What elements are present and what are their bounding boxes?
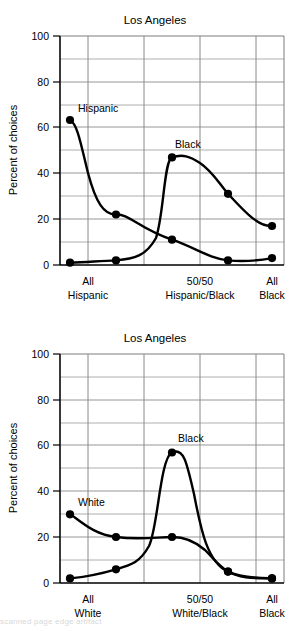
svg-text:Hispanic/Black: Hispanic/Black <box>166 289 236 301</box>
y-axis-label: Percent of choices <box>7 422 19 513</box>
y-axis-label: Percent of choices <box>7 104 19 195</box>
series-curve-white <box>70 514 272 578</box>
y-gridlines-major <box>60 400 284 537</box>
series-curve-black <box>70 451 272 578</box>
y-tick-label-40: 40 <box>37 167 49 179</box>
svg-text:Hispanic: Hispanic <box>68 289 108 301</box>
x-tick-label-all-hispanic: All Hispanic <box>68 275 108 301</box>
svg-text:All: All <box>82 593 94 605</box>
plot-frame <box>60 36 284 265</box>
x-gridlines <box>88 354 256 583</box>
x-gridlines <box>88 36 256 265</box>
x-tick-label-5050-hispanic-black: 50/50 Hispanic/Black <box>166 275 236 301</box>
svg-text:Black: Black <box>259 607 285 619</box>
chart-title: Los Angeles <box>124 332 187 344</box>
x-tick-label-5050-white-black: 50/50 White/Black <box>172 593 228 619</box>
chart-title: Los Angeles <box>124 14 187 26</box>
svg-text:All: All <box>82 275 94 287</box>
chart-bottom-svg: Los Angeles Percent of choices <box>0 310 304 630</box>
y-tick-marks <box>53 354 60 583</box>
y-tick-label-80: 80 <box>37 394 49 406</box>
chart-los-angeles-white-black: Los Angeles Percent of choices <box>0 310 304 630</box>
y-tick-marks <box>53 36 60 265</box>
x-tick-label-all-white: All White <box>75 593 102 619</box>
y-tick-label-0: 0 <box>43 259 49 271</box>
y-tick-label-40: 40 <box>37 485 49 497</box>
chart-top-svg: Los Angeles Percent of choices <box>0 0 304 310</box>
series-markers-black <box>66 448 276 582</box>
series-annotation-white: White <box>78 496 105 508</box>
y-tick-label-20: 20 <box>37 531 49 543</box>
series-annotation-black: Black <box>178 432 204 444</box>
series-markers-white <box>66 510 276 582</box>
svg-text:50/50: 50/50 <box>187 593 213 605</box>
x-tick-label-all-black: All Black <box>259 275 285 301</box>
plot-frame <box>60 354 284 583</box>
svg-text:All: All <box>266 275 278 287</box>
y-tick-label-80: 80 <box>37 76 49 88</box>
series-annotation-hispanic: Hispanic <box>78 102 118 114</box>
y-tick-label-20: 20 <box>37 213 49 225</box>
y-tick-label-0: 0 <box>43 577 49 589</box>
y-tick-label-100: 100 <box>31 30 49 42</box>
svg-text:All: All <box>266 593 278 605</box>
y-tick-label-60: 60 <box>37 121 49 133</box>
svg-text:Black: Black <box>259 289 285 301</box>
page-scan-artifact: scanned page edge artifact <box>0 617 190 626</box>
y-gridlines-minor <box>60 59 284 242</box>
y-tick-label-60: 60 <box>37 439 49 451</box>
chart-los-angeles-hispanic-black: Los Angeles Percent of choices <box>0 0 304 310</box>
series-curve-black <box>70 156 272 263</box>
svg-text:50/50: 50/50 <box>187 275 213 287</box>
y-tick-label-100: 100 <box>31 348 49 360</box>
series-annotation-black: Black <box>175 138 201 150</box>
x-tick-label-all-black: All Black <box>259 593 285 619</box>
y-gridlines-minor <box>60 377 284 560</box>
